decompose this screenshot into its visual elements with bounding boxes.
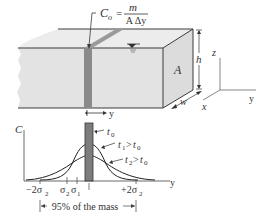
initial-concentration-formula: C o = m A Δy (100, 1, 148, 26)
svg-text:t: t (118, 139, 121, 150)
coordinate-axes: z y x (201, 47, 256, 112)
dispersion-diagram: C o = m A Δy A h w y (0, 0, 270, 223)
svg-text:t: t (133, 139, 136, 150)
mass-annotation: 95% of the mass (52, 201, 118, 212)
svg-text:1: 1 (77, 190, 81, 198)
svg-text:t: t (107, 126, 110, 137)
svg-text:x: x (201, 101, 207, 112)
y-direction-arrow: y (85, 108, 114, 119)
svg-text:t: t (125, 154, 128, 165)
svg-text:>: > (133, 154, 139, 165)
c-axis-label: C (15, 123, 23, 135)
svg-text:0: 0 (111, 131, 115, 139)
height-dimension: h (195, 30, 204, 89)
svg-text:+2σ: +2σ (121, 184, 138, 195)
svg-text:y: y (249, 93, 254, 104)
svg-text:y: y (109, 108, 114, 119)
svg-text:=: = (116, 7, 122, 19)
svg-text:m: m (129, 1, 137, 13)
area-label: A (173, 63, 182, 77)
svg-text:>: > (126, 139, 132, 150)
svg-text:2: 2 (45, 190, 49, 198)
svg-text:−2σ: −2σ (26, 184, 43, 195)
svg-text:0: 0 (144, 159, 148, 167)
y-axis-label: y (170, 177, 175, 188)
concentration-chart: C y t 0 t 1 > t 0 t 2 > t 0 −2σ (15, 123, 175, 212)
svg-text:0: 0 (137, 144, 141, 152)
channel-box (17, 29, 193, 108)
svg-text:t: t (140, 154, 143, 165)
svg-text:2: 2 (139, 190, 143, 198)
svg-text:A Δy: A Δy (126, 15, 147, 26)
svg-text:o: o (108, 13, 112, 22)
svg-text:z: z (211, 47, 216, 58)
svg-text:h: h (196, 53, 202, 65)
svg-text:w: w (180, 96, 187, 107)
pulse-t0 (85, 123, 93, 181)
svg-text:2: 2 (66, 190, 70, 198)
